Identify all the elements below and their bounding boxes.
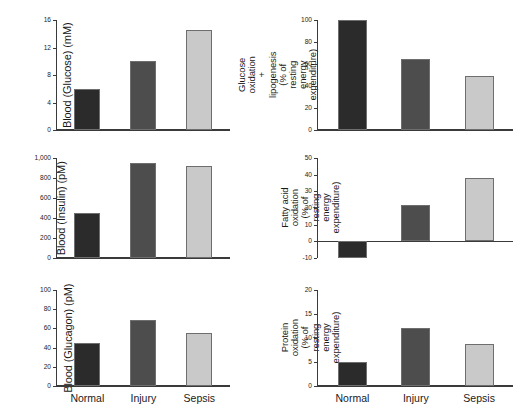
y-axis-line — [56, 20, 57, 130]
y-axis-tick-label: 0 — [308, 238, 312, 245]
y-axis-tick-label: 16 — [44, 17, 51, 24]
y-axis-tick-label: 100 — [40, 287, 51, 294]
y-axis-tick-label: 0 — [308, 383, 312, 390]
bar-blood-glucagon-normal — [74, 343, 100, 386]
y-axis-tick — [53, 103, 57, 104]
y-axis-tick — [53, 348, 57, 349]
y-axis-tick-label: 20 — [44, 364, 51, 371]
y-axis-tick — [53, 386, 57, 387]
y-axis-tick-label: 5 — [308, 359, 312, 366]
chart-panel-blood-insulin: Blood (Insulin) (pM)02004006008001,000 — [0, 0, 530, 415]
y-axis-tick-label: -10 — [302, 255, 312, 262]
y-axis-tick — [314, 338, 318, 339]
y-axis-tick-label: 0 — [47, 383, 51, 390]
y-axis-tick — [314, 290, 318, 291]
y-axis-tick — [314, 108, 318, 109]
y-axis-title-line: (% of resting — [301, 182, 321, 234]
bar-blood-insulin-sepsis — [186, 166, 212, 259]
y-axis-tick — [314, 314, 318, 315]
y-axis-tick-label: 50 — [305, 155, 312, 162]
x-axis-line — [56, 385, 230, 387]
y-axis-tick-label: 0 — [308, 127, 312, 134]
x-axis-line — [317, 241, 513, 243]
y-axis-tick-label: 30 — [305, 188, 312, 195]
y-axis-title-text: Fatty acid oxidation(% of restingenergy … — [280, 182, 341, 234]
y-axis-tick — [314, 130, 318, 131]
plot-area-blood-glucagon: 020406080100NormalInjurySepsis — [56, 290, 224, 386]
y-axis-tick-label: 100 — [301, 17, 312, 24]
y-axis-tick-label: 0 — [47, 127, 51, 134]
y-axis-tick — [314, 241, 318, 242]
x-axis-line — [317, 385, 513, 387]
y-axis-title-blood-insulin: Blood (Insulin) (pM) — [14, 158, 38, 258]
y-axis-tick — [314, 208, 318, 209]
y-axis-tick-label: 40 — [44, 344, 51, 351]
y-axis-tick — [53, 367, 57, 368]
y-axis-tick — [314, 258, 318, 259]
y-axis-title-fatty-acid-oxidation: Fatty acid oxidation(% of restingenergy … — [285, 158, 321, 258]
chart-panel-glucose-oxidation-lipogenesis: Glucose oxidation+ lipogenesis(% of rest… — [0, 0, 530, 415]
y-axis-title-line: energy expenditure) — [298, 49, 318, 101]
y-axis-tick — [314, 386, 318, 387]
y-axis-tick — [53, 130, 57, 131]
y-axis-tick-label: 600 — [40, 195, 51, 202]
y-axis-title-blood-glucagon: Blood (Glucagon) (pM) — [14, 290, 38, 386]
y-axis-tick-label: 20 — [305, 105, 312, 112]
y-axis-title-text: Blood (Glucose) (mM) — [62, 22, 73, 128]
plot-area-blood-insulin: 02004006008001,000 — [56, 158, 224, 258]
bar-glucose-oxidation-lipogenesis-sepsis — [465, 76, 494, 130]
y-axis-tick-label: 60 — [305, 61, 312, 68]
y-axis-tick — [314, 175, 318, 176]
y-axis-tick — [53, 198, 57, 199]
y-axis-tick-label: 4 — [47, 99, 51, 106]
y-axis-tick-label: 200 — [40, 235, 51, 242]
y-axis-tick — [314, 191, 318, 192]
bar-blood-glucagon-sepsis — [186, 333, 212, 386]
y-axis-tick-label: 80 — [305, 39, 312, 46]
plot-area-protein-oxidation: 05101520NormalInjurySepsis — [317, 290, 507, 386]
bar-blood-glucose-injury — [130, 61, 156, 130]
bar-protein-oxidation-sepsis — [465, 344, 494, 386]
plot-area-fatty-acid-oxidation: -1001020304050 — [317, 158, 507, 258]
bar-blood-insulin-normal — [74, 213, 100, 258]
x-axis-category-label: Normal — [70, 392, 104, 404]
x-axis-category-label: Injury — [403, 392, 429, 404]
chart-panel-protein-oxidation: Protein oxidation(% of restingenergy exp… — [0, 0, 530, 415]
y-axis-tick-label: 20 — [305, 205, 312, 212]
y-axis-title-line: Protein oxidation — [280, 312, 300, 364]
y-axis-tick-label: 80 — [44, 306, 51, 313]
y-axis-title-line: Fatty acid oxidation — [280, 182, 300, 234]
y-axis-tick — [314, 42, 318, 43]
y-axis-tick-label: 40 — [305, 83, 312, 90]
y-axis-tick-label: 800 — [40, 175, 51, 182]
bar-fatty-acid-oxidation-sepsis — [465, 178, 494, 241]
x-axis-line — [317, 129, 513, 131]
y-axis-tick — [314, 225, 318, 226]
y-axis-tick — [53, 158, 57, 159]
y-axis-title-text: Blood (Insulin) (pM) — [56, 161, 67, 255]
y-axis-title-text: Blood (Glucagon) (pM) — [63, 283, 74, 392]
y-axis-line — [56, 158, 57, 258]
y-axis-tick-label: 10 — [305, 335, 312, 342]
y-axis-title-text: Protein oxidation(% of restingenergy exp… — [280, 312, 341, 364]
bar-protein-oxidation-normal — [338, 362, 367, 386]
x-axis-line — [56, 257, 230, 259]
x-axis-category-label: Sepsis — [184, 392, 216, 404]
chart-panel-blood-glucagon: Blood (Glucagon) (pM)020406080100NormalI… — [0, 0, 530, 415]
y-axis-tick — [53, 328, 57, 329]
y-axis-title-protein-oxidation: Protein oxidation(% of restingenergy exp… — [285, 290, 321, 386]
y-axis-title-line: energy expenditure) — [321, 182, 341, 234]
y-axis-tick-label: 400 — [40, 215, 51, 222]
y-axis-tick — [314, 20, 318, 21]
y-axis-tick-label: 1,000 — [34, 155, 51, 162]
y-axis-tick — [53, 20, 57, 21]
y-axis-line — [317, 158, 318, 258]
bar-fatty-acid-oxidation-injury — [401, 205, 430, 242]
y-axis-tick-label: 20 — [305, 287, 312, 294]
y-axis-tick-label: 10 — [305, 221, 312, 228]
bar-protein-oxidation-injury — [401, 328, 430, 386]
y-axis-title-line: + lipogenesis — [257, 49, 277, 101]
y-axis-tick-label: 12 — [44, 44, 51, 51]
y-axis-line — [317, 20, 318, 130]
chart-panel-fatty-acid-oxidation: Fatty acid oxidation(% of restingenergy … — [0, 0, 530, 415]
